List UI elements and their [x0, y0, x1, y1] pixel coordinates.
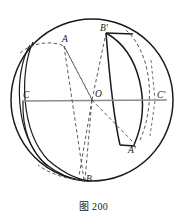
lune-left-outer-arc — [19, 45, 85, 181]
label-point-B: B — [86, 175, 92, 185]
label-point-O: O — [95, 90, 102, 100]
label-point-A: A — [62, 35, 68, 45]
label-point-C: C — [23, 91, 29, 101]
label-point-B-prime: B' — [100, 24, 108, 34]
dashed-segment-O-lower — [79, 100, 92, 176]
geometry-figure: A B' C O C' A' B 图 200 — [0, 0, 187, 220]
dashed-arc-back-right — [126, 30, 149, 140]
dashed-radius-O-B — [85, 100, 92, 180]
axis-line-cc-prime — [22, 100, 167, 101]
label-point-C-prime: C' — [157, 91, 165, 101]
lune-right-top-cap — [106, 33, 133, 34]
dashed-tick-Cprime-upper — [151, 60, 155, 99]
figure-caption: 图 200 — [0, 198, 187, 213]
sphere-diagram-svg — [0, 0, 187, 220]
lune-right-inner-arc — [106, 33, 120, 145]
lune-left-inner-arc — [25, 42, 85, 180]
label-point-A-prime: A' — [128, 146, 136, 156]
dashed-tick-Cprime-lower — [150, 101, 155, 136]
